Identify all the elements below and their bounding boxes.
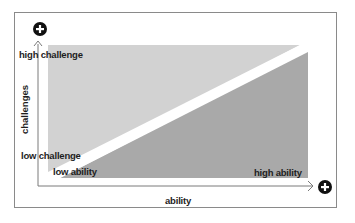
plus-circle-icon	[33, 22, 47, 36]
flow-diagram	[0, 0, 355, 223]
low-ability-label: low ability	[53, 166, 97, 177]
x-axis-title: ability	[165, 195, 191, 206]
high-ability-label: high ability	[254, 167, 302, 178]
low-challenge-label: low challenge	[21, 150, 81, 161]
y-axis-title: challenges	[19, 82, 30, 138]
plus-circle-icon	[318, 180, 332, 194]
high-challenge-label: high challenge	[19, 49, 83, 60]
